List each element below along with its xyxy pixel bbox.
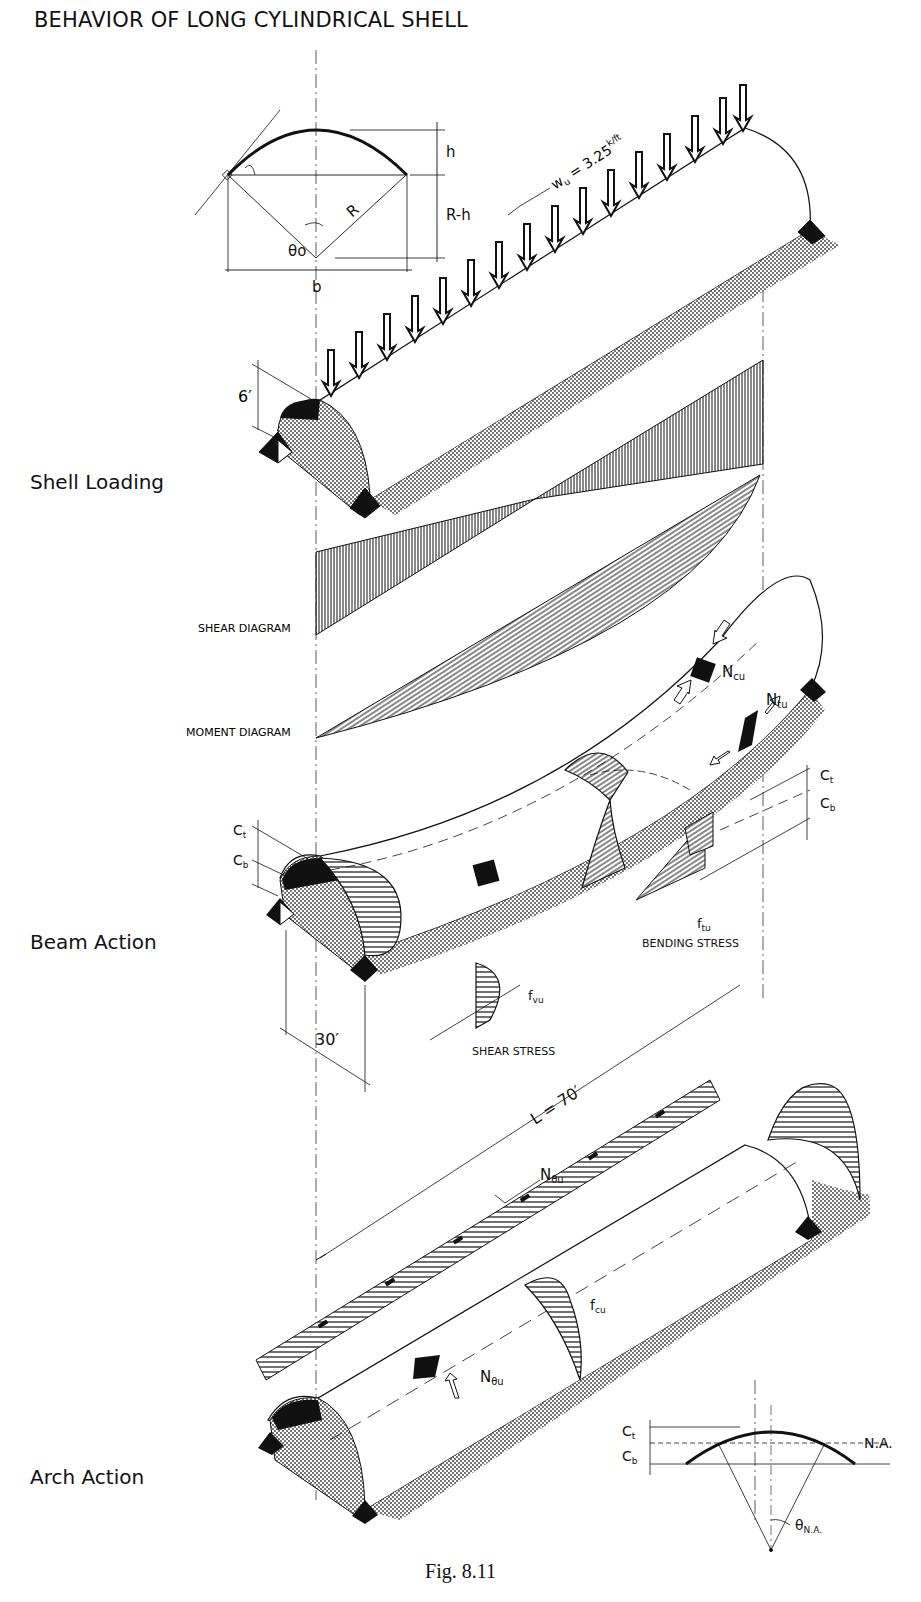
bending-stress-label: BENDING STRESS [642, 937, 739, 950]
label-ct-left: Ct [233, 822, 247, 840]
label-h: h [446, 143, 456, 161]
label-na: N.A. [864, 1435, 893, 1451]
label-theta-o: θo [288, 242, 306, 260]
label-ct-right: Ct [820, 767, 834, 785]
moment-diagram-label: MOMENT DIAGRAM [186, 726, 291, 739]
label-b: b [312, 278, 322, 296]
shear-stress-label: SHEAR STRESS [472, 1045, 555, 1058]
arch-action-drawing [256, 985, 870, 1524]
neutral-axis-diagram [650, 1405, 890, 1552]
label-cb-na: Cb [622, 1448, 638, 1466]
label-fvu: fvu [528, 988, 544, 1005]
label-theta-na: θN.A. [795, 1517, 822, 1535]
shear-diagram-label: SHEAR DIAGRAM [198, 622, 291, 635]
cross-section-diagram [195, 110, 445, 272]
label-cb-right: Cb [820, 795, 836, 813]
load-label: wu = 3.25k/ft [547, 132, 629, 195]
shell-figure: h R-h R θo b [0, 0, 921, 1602]
label-width: 30′ [315, 1030, 339, 1049]
label-ftu: ftu [697, 916, 711, 933]
label-ct-na: Ct [622, 1423, 636, 1441]
label-rise: 6′ [238, 387, 252, 406]
label-cb-left: Cb [233, 852, 249, 870]
label-r-minus-h: R-h [446, 206, 471, 224]
label-n-theta-strip: Nθu [540, 1166, 564, 1185]
label-length: L = 70′ [527, 1081, 585, 1128]
